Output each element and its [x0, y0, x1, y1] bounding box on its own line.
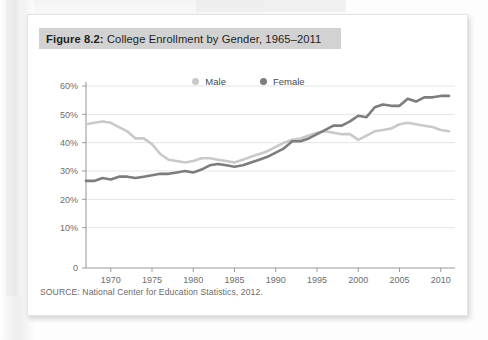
page-top-edge-band — [196, 0, 346, 12]
book-spine-shadow — [6, 0, 22, 296]
x-tick-label: 1990 — [266, 275, 286, 285]
x-tick-label: 1975 — [142, 275, 162, 285]
figure-page: Figure 8.2: College Enrollment by Gender… — [0, 0, 488, 340]
x-tick-label: 1970 — [101, 275, 121, 285]
figure-source-note: SOURCE: National Center for Education St… — [40, 287, 263, 297]
y-tick-label: 30% — [60, 166, 78, 176]
x-tick-label: 2010 — [431, 275, 451, 285]
y-tick-label: 40% — [60, 138, 78, 148]
x-tick-label: 2000 — [348, 275, 368, 285]
x-tick-label: 1995 — [307, 275, 327, 285]
y-tick-label: 20% — [60, 195, 78, 205]
chart-plot-area: 010%20%30%40%50%60%197019751980198519901… — [28, 15, 469, 317]
y-tick-label: 0 — [73, 263, 78, 273]
y-tick-label: 60% — [60, 81, 78, 91]
x-tick-label: 2005 — [389, 275, 409, 285]
figure-card: Figure 8.2: College Enrollment by Gender… — [27, 14, 468, 316]
x-tick-label: 1985 — [224, 275, 244, 285]
y-tick-label: 10% — [60, 223, 78, 233]
x-tick-label: 1980 — [183, 275, 203, 285]
y-tick-label: 50% — [60, 110, 78, 120]
line-chart-svg: 010%20%30%40%50%60%197019751980198519901… — [28, 15, 469, 317]
